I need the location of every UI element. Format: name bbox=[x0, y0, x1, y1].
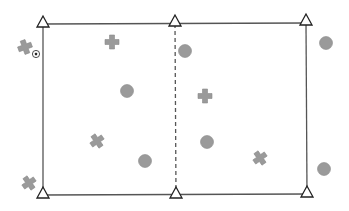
cone-top-right-triangle-icon[interactable] bbox=[300, 14, 312, 25]
defender-1-circle-icon[interactable] bbox=[179, 45, 192, 58]
attacker-6-cross-icon[interactable] bbox=[19, 173, 38, 192]
cone-top-middle-triangle-icon[interactable] bbox=[169, 15, 181, 26]
defender-6-circle-icon[interactable] bbox=[318, 163, 331, 176]
attacker-5-cross-icon[interactable] bbox=[250, 148, 269, 167]
cone-top-left-triangle-icon[interactable] bbox=[37, 16, 49, 27]
defender-4-circle-icon[interactable] bbox=[139, 155, 152, 168]
defender-2-circle-icon[interactable] bbox=[121, 85, 134, 98]
field-boundary bbox=[43, 23, 307, 195]
defenders-layer bbox=[121, 37, 333, 176]
attacker-2-cross-icon[interactable] bbox=[105, 35, 119, 49]
training-field bbox=[0, 0, 349, 211]
attacker-3-cross-icon[interactable] bbox=[198, 89, 212, 103]
attackers-layer bbox=[16, 35, 270, 193]
dashed-midline bbox=[175, 24, 176, 195]
right-line bbox=[306, 23, 307, 194]
cone-bottom-middle-triangle-icon[interactable] bbox=[170, 187, 182, 198]
soccer-ball-icon[interactable] bbox=[32, 50, 39, 57]
attacker-4-cross-icon[interactable] bbox=[87, 131, 106, 150]
defender-3-circle-icon[interactable] bbox=[320, 37, 333, 50]
cone-bottom-right-triangle-icon[interactable] bbox=[301, 186, 313, 197]
cone-bottom-left-triangle-icon[interactable] bbox=[37, 187, 49, 198]
ball-layer bbox=[32, 50, 39, 57]
defender-5-circle-icon[interactable] bbox=[201, 136, 214, 149]
attacker-1-cross-icon[interactable] bbox=[16, 38, 34, 56]
